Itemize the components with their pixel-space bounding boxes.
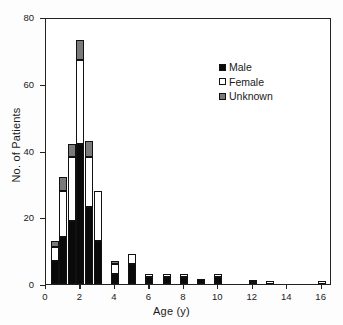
bar-segment-male [59, 237, 67, 284]
x-tick-label: 16 [311, 291, 331, 302]
x-tick-label: 14 [276, 291, 296, 302]
bar-segment-male [180, 277, 188, 284]
y-tick-label: 60 [12, 79, 34, 90]
plot-area [45, 18, 331, 285]
bar [128, 254, 136, 284]
legend-label: Unknown [229, 91, 273, 102]
bar-segment-female [85, 157, 93, 207]
x-tick-label: 0 [35, 291, 55, 302]
bar-segment-female [249, 282, 257, 284]
legend-item-unknown: Unknown [219, 89, 273, 104]
bar [266, 281, 274, 284]
bar-segment-female [59, 191, 67, 238]
bar-segment-unknown [249, 280, 257, 282]
bar-segment-male [94, 241, 102, 284]
bar [76, 40, 84, 284]
bar-segment-unknown [51, 241, 59, 248]
bar-segment-unknown [59, 177, 67, 190]
bar [51, 241, 59, 284]
y-tick-label: 80 [12, 12, 34, 23]
bar-segment-female [128, 254, 136, 264]
bar-segment-female [76, 60, 84, 143]
bar [318, 281, 326, 284]
bar [111, 261, 119, 284]
x-tick-label: 10 [207, 291, 227, 302]
bar [145, 274, 153, 284]
bar-segment-female [163, 274, 171, 277]
bar [59, 177, 67, 284]
x-tick-label: 12 [242, 291, 262, 302]
bar-segment-male [85, 207, 93, 284]
y-tick-label: 40 [12, 146, 34, 157]
bar-segment-female [94, 191, 102, 241]
legend-swatch-icon [219, 93, 226, 100]
x-tick-label: 4 [104, 291, 124, 302]
legend-item-female: Female [219, 75, 273, 90]
bar-segment-unknown [111, 261, 119, 264]
chart-legend: MaleFemaleUnknown [219, 60, 273, 104]
legend-label: Female [229, 77, 264, 88]
x-tick-label: 2 [69, 291, 89, 302]
x-axis-label: Age (y) [0, 305, 343, 317]
bar-segment-male [128, 264, 136, 284]
y-tick-label: 0 [12, 279, 34, 290]
bar-segment-unknown [68, 144, 76, 157]
x-tick-label: 6 [138, 291, 158, 302]
chart-figure: No. of Patients Age (y) 020406080 024681… [0, 0, 343, 325]
bar-segment-unknown [76, 40, 84, 60]
bar [163, 274, 171, 284]
bar-segment-male [214, 277, 222, 284]
bar [85, 141, 93, 285]
bar-segment-male [51, 261, 59, 284]
y-tick-label: 20 [12, 212, 34, 223]
bar-segment-female [111, 264, 119, 274]
bar-segment-male [76, 144, 84, 284]
bar [94, 191, 102, 284]
bar-segment-male [163, 277, 171, 284]
bar-segment-male [111, 274, 119, 284]
bar-segment-male [197, 279, 205, 284]
bar-segment-female [318, 281, 326, 284]
bar-segment-female [51, 247, 59, 260]
bar [180, 274, 188, 284]
legend-label: Male [229, 62, 252, 73]
bar-segment-female [214, 274, 222, 277]
legend-swatch-icon [219, 78, 226, 85]
bar [197, 279, 205, 284]
bar [249, 280, 257, 284]
bar-segment-female [145, 274, 153, 277]
x-tick-label: 8 [173, 291, 193, 302]
bar-segment-female [68, 157, 76, 220]
bar-segment-female [266, 281, 274, 284]
legend-swatch-icon [219, 64, 226, 71]
bar [214, 274, 222, 284]
legend-item-male: Male [219, 60, 273, 75]
bar-segment-female [180, 274, 188, 277]
bar-segment-male [145, 277, 153, 284]
bar-segment-male [68, 221, 76, 284]
bar [68, 144, 76, 284]
bar-segment-unknown [85, 141, 93, 158]
